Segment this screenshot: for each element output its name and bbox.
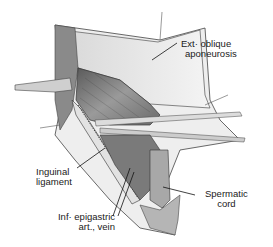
label-line: cord (205, 199, 248, 209)
label-line: art., vein (45, 222, 115, 232)
label-inf-epigastric-vessels: Inf· epigastric art., vein (45, 212, 115, 232)
label-line: ligament (36, 177, 72, 187)
label-spermatic-cord: Spermatic cord (205, 189, 248, 209)
surgical-illustration: Ext· oblique aponeurosis Inguinal ligame… (0, 0, 273, 247)
label-inguinal-ligament: Inguinal ligament (36, 167, 72, 187)
label-ext-oblique-aponeurosis: Ext· oblique aponeurosis (181, 39, 237, 59)
anatomy-drawing (0, 0, 273, 247)
label-line: aponeurosis (181, 49, 237, 59)
